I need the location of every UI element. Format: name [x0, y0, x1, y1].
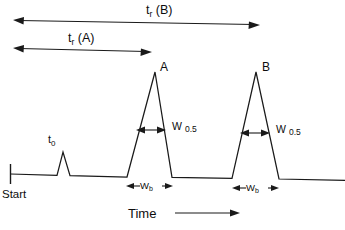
- peak-b-base-width-left-arrowhead: [232, 185, 240, 191]
- tr-a-arrow-line: [19, 49, 146, 52]
- peak-a-base-width-left-arrowhead: [126, 183, 134, 189]
- tr-b-arrow-line: [19, 21, 254, 25]
- retention-arrow-tr-a: [13, 45, 152, 56]
- time-axis-arrowhead: [230, 210, 240, 217]
- tr-b-right-arrowhead: [249, 22, 261, 30]
- peak-a-base-width-label: Wb: [140, 180, 153, 192]
- chromatogram-figure: tr (B) tr (A) Start t0 A B W0.5: [0, 0, 345, 230]
- tr-a-left-arrowhead: [13, 45, 24, 53]
- tr-b-label: tr (B): [146, 3, 172, 19]
- peak-a-base-width-right-arrowhead: [165, 183, 173, 189]
- chromatogram-svg: tr (B) tr (A) Start t0 A B W0.5: [0, 0, 345, 230]
- time-axis-label: Time: [128, 206, 156, 221]
- peak-a-label: A: [160, 60, 168, 74]
- tr-a-right-arrowhead: [141, 49, 153, 57]
- peak-b-base-width-right-arrowhead: [271, 185, 279, 191]
- peak-b-half-width-arrow: [240, 130, 270, 137]
- start-label: Start: [2, 188, 27, 200]
- time-axis-arrow: [175, 210, 240, 217]
- tr-a-label: tr (A): [68, 31, 94, 47]
- peak-b-half-width-label: W0.5: [276, 123, 301, 137]
- peak-b-label: B: [262, 60, 270, 74]
- peak-a-half-width-label: W0.5: [172, 120, 197, 134]
- tr-b-left-arrowhead: [13, 17, 24, 25]
- retention-arrow-tr-b: [13, 17, 260, 29]
- peak-b-base-width-label: Wb: [246, 182, 259, 194]
- t0-label: t0: [48, 133, 56, 148]
